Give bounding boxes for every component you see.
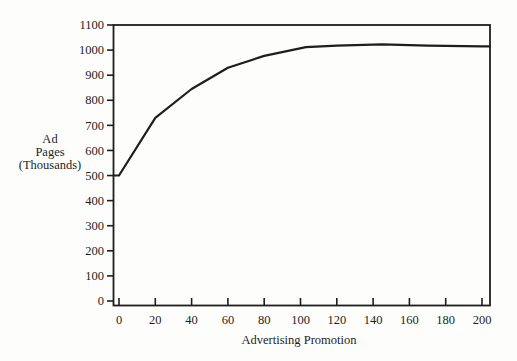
x-tick-label-140: 140 bbox=[364, 313, 383, 327]
y-axis-title-line-3: (Thousands) bbox=[19, 158, 82, 172]
x-axis-ticks: 020406080100120140160180200 bbox=[116, 298, 492, 327]
x-tick-label-60: 60 bbox=[222, 313, 235, 327]
x-tick-label-40: 40 bbox=[185, 313, 198, 327]
y-axis-title-line-2: Pages bbox=[35, 145, 64, 159]
y-tick-label-400: 400 bbox=[85, 194, 104, 208]
x-tick-label-120: 120 bbox=[327, 313, 346, 327]
scanned-chart-page: 010020030040050060070080090010001100 020… bbox=[0, 0, 517, 361]
x-tick-label-80: 80 bbox=[258, 313, 271, 327]
y-tick-label-1100: 1100 bbox=[79, 18, 104, 32]
y-tick-label-900: 900 bbox=[85, 68, 104, 82]
y-axis-ticks: 010020030040050060070080090010001100 bbox=[79, 18, 114, 308]
y-axis-title-line-1: Ad bbox=[42, 132, 58, 146]
x-tick-label-200: 200 bbox=[473, 313, 492, 327]
y-tick-label-800: 800 bbox=[85, 93, 104, 107]
x-axis-title: Advertising Promotion bbox=[242, 333, 358, 347]
y-tick-label-300: 300 bbox=[85, 219, 104, 233]
y-tick-label-0: 0 bbox=[98, 294, 104, 308]
x-tick-label-160: 160 bbox=[400, 313, 419, 327]
x-tick-label-100: 100 bbox=[291, 313, 310, 327]
line-chart: 010020030040050060070080090010001100 020… bbox=[0, 0, 517, 361]
y-tick-label-100: 100 bbox=[85, 269, 104, 283]
y-tick-label-1000: 1000 bbox=[79, 43, 104, 57]
y-tick-label-500: 500 bbox=[85, 169, 104, 183]
x-tick-label-180: 180 bbox=[436, 313, 455, 327]
x-tick-label-0: 0 bbox=[116, 313, 122, 327]
data-series bbox=[114, 44, 491, 175]
y-tick-label-700: 700 bbox=[85, 119, 104, 133]
x-tick-label-20: 20 bbox=[149, 313, 162, 327]
y-tick-label-600: 600 bbox=[85, 144, 104, 158]
curve-ad-pages bbox=[114, 44, 491, 175]
y-tick-label-200: 200 bbox=[85, 244, 104, 258]
plot-frame bbox=[114, 25, 491, 306]
